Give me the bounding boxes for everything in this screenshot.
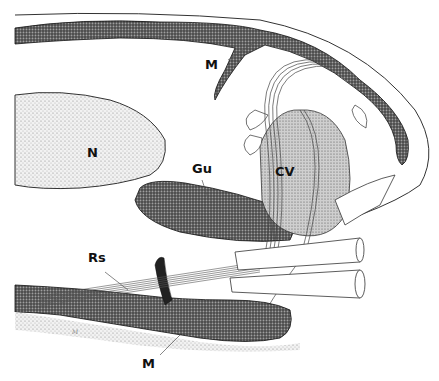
label-nerve: N [87,145,98,160]
nerve-mass [15,92,165,188]
tubes [230,238,365,298]
anatomical-illustration: M N Gu CV Rs M M [0,0,439,381]
label-rs: Rs [88,250,106,265]
scale-mark: M [71,328,79,335]
label-gut: Gu [192,161,212,176]
label-muscle-top: M [205,57,218,72]
label-muscle-bottom: M [142,356,155,371]
label-cv: CV [275,164,295,179]
